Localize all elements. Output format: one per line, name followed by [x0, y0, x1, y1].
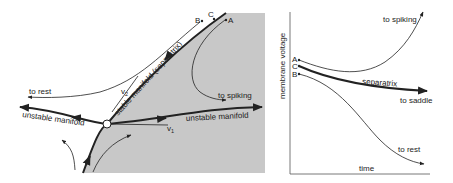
x-axis-label: time: [359, 164, 375, 173]
label-point-c: C: [208, 10, 214, 19]
time-point-a: [298, 59, 300, 61]
time-label-b: B: [292, 70, 297, 79]
saddle-point: [103, 120, 111, 128]
time-plot: membrane voltage time A C B to spiking s…: [278, 12, 433, 174]
label-time-to-spiking: to spiking: [383, 15, 417, 24]
label-to-rest: to rest: [29, 87, 52, 96]
time-point-b: [298, 73, 300, 75]
label-point-b: B: [195, 16, 200, 25]
point-b: [201, 20, 203, 22]
point-a: [225, 19, 227, 21]
time-point-c: [298, 65, 300, 67]
label-to-spiking: to spiking: [218, 91, 252, 100]
phase-portrait: B C A to rest to spiking unstable manifo…: [20, 10, 265, 173]
y-axis-label: membrane voltage: [278, 32, 287, 99]
label-v2: v2: [121, 87, 128, 97]
unstable-manifold-right-arrow: [158, 118, 166, 119]
label-time-to-rest: to rest: [398, 145, 421, 154]
label-separatrix: separatrix: [362, 77, 398, 88]
figure: B C A to rest to spiking unstable manifo…: [0, 0, 453, 183]
label-to-saddle: to saddle: [400, 96, 433, 105]
label-point-a: A: [228, 16, 234, 25]
flow-arrow-left: [62, 140, 75, 170]
